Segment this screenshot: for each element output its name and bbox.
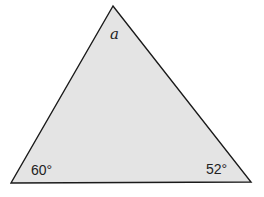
angle-label-top: a bbox=[110, 25, 119, 43]
angle-label-bottom-left: 60° bbox=[31, 162, 52, 178]
triangle-diagram: a 60° 52° bbox=[0, 0, 264, 197]
triangle-shape bbox=[11, 6, 251, 183]
angle-label-bottom-right: 52° bbox=[206, 161, 227, 177]
